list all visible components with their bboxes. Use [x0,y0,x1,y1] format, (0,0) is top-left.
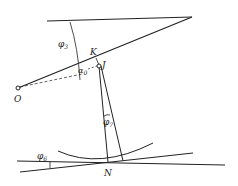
link-line-o [18,17,192,88]
phi7-arc [104,115,110,116]
dashed-line-j [88,66,97,69]
point-j [97,64,101,68]
mechanism-diagram: O K J N φ3 α0 φ7 φ6 [0,0,238,186]
label-n: N [103,168,113,178]
top-reference-line [47,17,192,21]
line-j-n2 [101,66,123,161]
label-alpha0: α0 [78,66,87,76]
label-phi3: φ3 [58,39,68,50]
label-j: J [100,60,107,70]
label-phi6: φ6 [37,151,47,162]
label-o: O [14,94,22,104]
label-phi7: φ7 [103,117,113,128]
line-j-n [99,66,108,162]
ground-line [17,161,225,165]
label-k: K [89,47,98,57]
contact-curve [58,143,153,159]
point-o [16,86,20,90]
dashed-line-o [20,74,82,87]
